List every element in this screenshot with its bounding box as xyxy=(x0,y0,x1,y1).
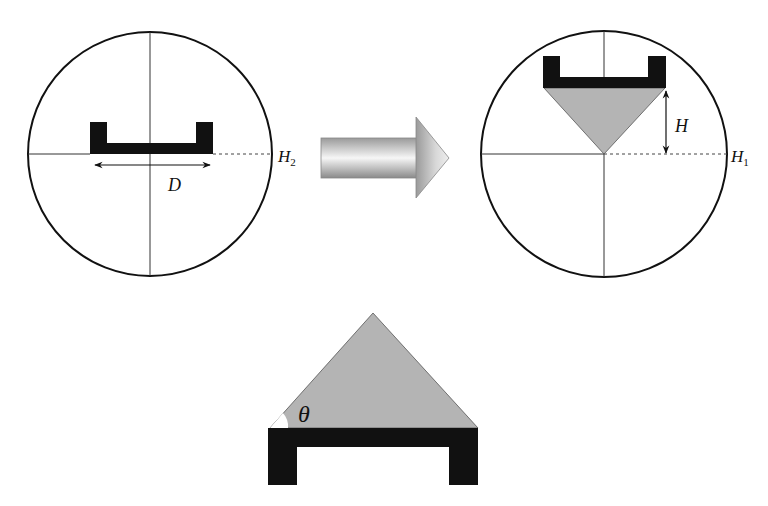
detail-u-channel xyxy=(268,428,478,485)
right-level-label: H1 xyxy=(730,147,749,168)
angle-label: θ xyxy=(298,401,310,427)
right-fill-triangle xyxy=(544,88,665,154)
left-panel: D H2 xyxy=(28,32,296,276)
transition-arrow-icon xyxy=(321,117,449,198)
width-label: D xyxy=(167,175,181,195)
height-label: H xyxy=(674,116,689,136)
left-level-label: H2 xyxy=(277,147,296,168)
diagram-canvas: D H2 H H1 θ xyxy=(0,0,768,506)
right-panel: H H1 xyxy=(481,31,749,277)
left-u-channel xyxy=(90,122,213,154)
detail-panel: θ xyxy=(268,313,478,485)
